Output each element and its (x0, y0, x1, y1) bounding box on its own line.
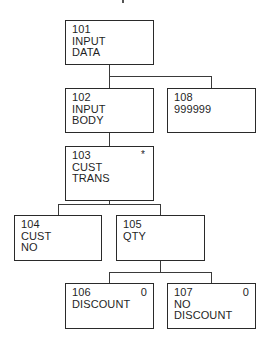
connector-to-106 (109, 272, 110, 283)
node-label-line: BODY (72, 115, 153, 127)
connector-103-branch (58, 204, 161, 205)
node-id: 101 (72, 24, 153, 36)
node-label-line: QTY (123, 231, 204, 243)
node-105-qty: 105 QTY (116, 215, 205, 261)
node-107-no-discount: 107 NO DISCOUNT 0 (167, 283, 256, 329)
node-label-line: 999999 (174, 104, 255, 116)
selection-marker: 0 (141, 287, 147, 299)
connector-to-105 (160, 204, 161, 215)
node-id: 104 (21, 219, 101, 231)
node-label-line: TRANS (72, 173, 153, 185)
node-106-discount: 106 DISCOUNT 0 (65, 283, 154, 329)
node-label-line: DISCOUNT (72, 299, 153, 311)
iteration-asterisk-icon: * (141, 149, 145, 161)
node-id: 105 (123, 219, 204, 231)
connector-to-107 (211, 272, 212, 283)
node-101-input-data: 101 INPUT DATA (65, 20, 154, 65)
node-104-cust-no: 104 CUST NO (14, 215, 102, 261)
node-label-line: NO (21, 242, 101, 254)
connector-to-108 (211, 76, 212, 88)
node-label-line: DATA (72, 47, 153, 59)
node-108-999999: 108 999999 (167, 88, 256, 133)
node-label-line: DISCOUNT (174, 310, 255, 322)
connector-101-branch (109, 76, 211, 77)
connector-105-branch (109, 272, 212, 273)
selection-marker: 0 (243, 287, 249, 299)
node-103-cust-trans: 103 CUST TRANS * (65, 146, 154, 201)
node-id: 108 (174, 92, 255, 104)
connector-102-103 (109, 133, 110, 146)
node-102-input-body: 102 INPUT BODY (65, 88, 154, 133)
node-id: 102 (72, 92, 153, 104)
page-top-mark (122, 0, 124, 3)
connector-to-104 (58, 204, 59, 215)
